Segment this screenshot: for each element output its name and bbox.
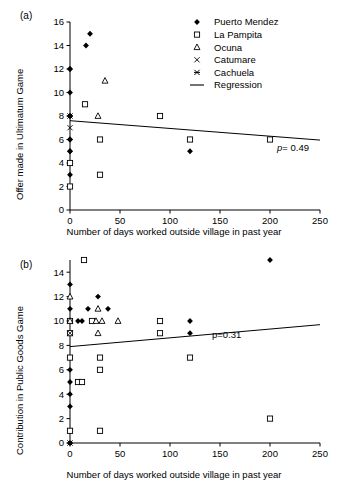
marker-open-square [267, 416, 272, 421]
x-tick-label: 250 [312, 215, 328, 226]
panel-a-xaxis-title: Number of days worked outside village in… [0, 226, 348, 237]
marker-filled-diamond [187, 148, 193, 154]
marker-filled-diamond [67, 306, 73, 312]
panel-a-yaxis-title: Offer made in Ultimatum Game [14, 69, 25, 200]
x-tick-label: 50 [115, 448, 126, 459]
y-tick-label: 10 [53, 315, 64, 326]
marker-filled-diamond [95, 294, 101, 300]
x-tick-label: 250 [312, 448, 328, 459]
x-tick-label: 200 [262, 215, 278, 226]
panel-a: (a) 0501001502002500246810121416Puerto M… [0, 0, 348, 243]
x-tick-label: 100 [162, 215, 178, 226]
panel-b: (b) 05010015020025002468101214 Number of… [0, 243, 348, 486]
panel-b-pvalue-value: =0.31 [217, 329, 241, 340]
marker-filled-diamond [85, 306, 91, 312]
marker-filled-diamond [187, 318, 193, 324]
marker-open-triangle [95, 113, 101, 119]
marker-open-triangle [99, 318, 105, 324]
marker-open-square [157, 113, 162, 118]
x-tick-label: 100 [162, 448, 178, 459]
marker-open-square [82, 102, 87, 107]
marker-filled-diamond [67, 66, 73, 72]
marker-open-triangle [194, 44, 200, 50]
legend-label: Puerto Mendez [214, 16, 279, 27]
marker-filled-diamond [79, 318, 85, 324]
legend-label: La Pampita [214, 29, 263, 40]
marker-open-square [67, 428, 72, 433]
y-tick-label: 0 [59, 437, 64, 448]
x-tick-label: 150 [212, 215, 228, 226]
panel-b-yaxis-title: Contribution in Public Goods Game [14, 306, 25, 455]
marker-open-triangle [95, 330, 101, 336]
x-tick-label: 150 [212, 448, 228, 459]
marker-open-square [81, 257, 86, 262]
marker-filled-diamond [67, 282, 73, 288]
x-tick-label: 0 [67, 215, 72, 226]
marker-filled-diamond [67, 172, 73, 178]
marker-open-triangle [95, 306, 101, 312]
panel-b-pvalue: p=0.31 [212, 329, 241, 340]
marker-filled-diamond [67, 404, 73, 410]
marker-filled-diamond [105, 306, 111, 312]
marker-cross-x [194, 57, 199, 62]
marker-filled-diamond [67, 379, 73, 385]
marker-open-triangle [102, 78, 108, 84]
panel-a-plot: 0501001502002500246810121416Puerto Mende… [0, 0, 348, 243]
marker-open-square [157, 331, 162, 336]
regression-line [70, 325, 320, 347]
y-tick-label: 4 [59, 157, 64, 168]
y-tick-label: 6 [59, 134, 64, 145]
x-tick-label: 200 [262, 448, 278, 459]
marker-open-square [67, 160, 72, 165]
regression-line [70, 121, 320, 140]
legend-label: Cachuela [214, 67, 255, 78]
marker-filled-diamond [187, 330, 193, 336]
marker-open-square [67, 355, 72, 360]
y-tick-label: 16 [53, 16, 64, 27]
marker-filled-diamond [83, 43, 89, 49]
panel-a-pvalue-value: = 0.49 [282, 142, 309, 153]
marker-open-square [267, 137, 272, 142]
marker-star-x [194, 70, 200, 75]
marker-filled-diamond [267, 257, 273, 263]
marker-open-square [97, 355, 102, 360]
y-tick-label: 8 [59, 110, 64, 121]
marker-filled-diamond [67, 137, 73, 143]
marker-open-square [97, 172, 102, 177]
legend-label: Regression [214, 79, 262, 90]
marker-filled-diamond [67, 90, 73, 96]
y-tick-label: 10 [53, 87, 64, 98]
y-tick-label: 14 [53, 267, 64, 278]
marker-open-square [187, 355, 192, 360]
marker-open-triangle [115, 318, 121, 324]
y-tick-label: 14 [53, 40, 64, 51]
panel-b-xaxis-title: Number of days worked outside village in… [0, 469, 348, 480]
marker-filled-diamond [67, 391, 73, 397]
y-tick-label: 12 [53, 63, 64, 74]
y-tick-label: 12 [53, 291, 64, 302]
y-tick-label: 2 [59, 413, 64, 424]
y-tick-label: 0 [59, 204, 64, 215]
scatter-figure: (a) 0501001502002500246810121416Puerto M… [0, 0, 348, 486]
marker-filled-diamond [194, 19, 200, 25]
marker-filled-diamond [87, 31, 93, 37]
panel-a-pvalue: p= 0.49 [277, 142, 309, 153]
legend-label: Ocuna [214, 42, 243, 53]
y-tick-label: 6 [59, 364, 64, 375]
marker-open-square [187, 137, 192, 142]
marker-filled-diamond [67, 148, 73, 154]
y-tick-label: 8 [59, 340, 64, 351]
marker-open-square [194, 32, 199, 37]
x-tick-label: 0 [67, 448, 72, 459]
marker-open-square [97, 428, 102, 433]
marker-open-square [157, 318, 162, 323]
marker-open-square [97, 137, 102, 142]
marker-open-square [97, 367, 102, 372]
x-tick-label: 50 [115, 215, 126, 226]
y-tick-label: 2 [59, 181, 64, 192]
marker-filled-diamond [67, 367, 73, 373]
y-tick-label: 4 [59, 389, 64, 400]
panel-b-plot: 05010015020025002468101214 [0, 243, 348, 486]
marker-open-square [79, 379, 84, 384]
marker-open-square [67, 184, 72, 189]
